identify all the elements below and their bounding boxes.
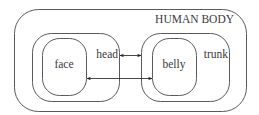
face-label: face xyxy=(54,58,73,70)
head-node: head xyxy=(33,34,120,102)
head-box xyxy=(33,34,120,102)
trunk-node: trunk xyxy=(142,34,230,102)
belly-node: belly xyxy=(153,39,197,96)
face-node: face xyxy=(43,39,87,96)
human-body-label: HUMAN BODY xyxy=(155,13,235,25)
head-label: head xyxy=(96,48,118,60)
human-body-node: HUMAN BODY xyxy=(15,10,247,112)
trunk-box xyxy=(142,34,230,102)
trunk-label: trunk xyxy=(204,48,229,60)
diagram-canvas: HUMAN BODY head face trunk belly xyxy=(0,0,259,115)
belly-label: belly xyxy=(163,58,186,71)
